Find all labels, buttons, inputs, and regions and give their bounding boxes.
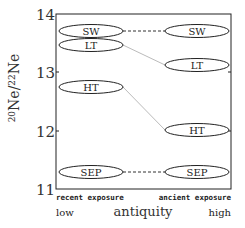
ellipse-ht-left: HT	[59, 81, 123, 94]
svg-text:LT: LT	[191, 60, 204, 71]
ellipse-ht-right: HT	[165, 124, 229, 137]
svg-text:LT: LT	[85, 40, 98, 51]
svg-text:20Ne/22Ne: 20Ne/22Ne	[6, 54, 22, 123]
ellipse-sw-left: SW	[59, 25, 123, 38]
svg-text:SW: SW	[82, 26, 100, 37]
y-tick-label-11: 11	[36, 181, 55, 199]
svg-text:SEP: SEP	[187, 167, 208, 178]
y-tick-label-13: 13	[36, 64, 55, 82]
svg-text:SW: SW	[188, 26, 206, 37]
svg-text:SEP: SEP	[81, 167, 102, 178]
ellipse-sep-left: SEP	[59, 166, 123, 179]
x-axis-title: antiquity	[114, 204, 174, 219]
x-label-high: high	[209, 207, 232, 218]
ellipse-sep-right: SEP	[165, 166, 229, 179]
lt-connector	[123, 45, 165, 65]
ellipse-lt-left: LT	[59, 39, 123, 52]
svg-text:HT: HT	[83, 82, 99, 93]
x-label-low: low	[56, 207, 74, 218]
y-tick-label-12: 12	[36, 123, 55, 141]
y-axis-label: 20Ne/22Ne	[6, 54, 22, 123]
x-label-recent: recent exposure	[56, 193, 124, 202]
chart: 14 13 12 11 20Ne/22Ne SW LT HT SEP SW LT…	[0, 0, 245, 228]
ht-connector	[123, 87, 165, 130]
x-label-ancient: ancient exposure	[159, 193, 232, 202]
svg-text:HT: HT	[189, 125, 205, 136]
y-tick-label-14: 14	[36, 6, 55, 24]
ellipse-lt-right: LT	[165, 59, 229, 72]
ellipse-sw-right: SW	[165, 25, 229, 38]
